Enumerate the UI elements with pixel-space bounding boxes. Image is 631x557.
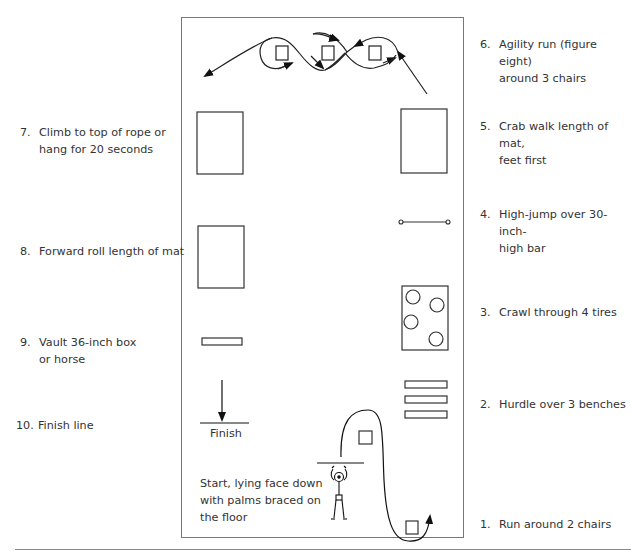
station-10-label: 10. Finish line xyxy=(16,417,94,434)
station-text-line-2: or horse xyxy=(20,351,136,368)
chair-icon xyxy=(276,46,288,60)
station-number: 7. xyxy=(20,124,31,141)
station-text-line-2: high bar xyxy=(480,240,631,257)
station-7-label: 7. Climb to top of rope or hang for 20 s… xyxy=(20,124,166,158)
crab-walk-mat xyxy=(401,109,447,173)
agility-run-figure-eight xyxy=(205,33,427,94)
station-8-label: 8. Forward roll length of mat xyxy=(20,243,184,260)
tire-icon xyxy=(406,290,420,304)
station-1-label: 1. Run around 2 chairs xyxy=(480,516,611,533)
station-number: 2. xyxy=(480,396,491,413)
station-text-line-1: Agility run (figure eight) xyxy=(480,36,631,70)
station-text: Run around 2 chairs xyxy=(480,516,611,533)
rope-climb-mat xyxy=(197,112,243,174)
station-text-line-1: Crab walk length of mat, xyxy=(480,118,631,152)
station-text-line-2: hang for 20 seconds xyxy=(20,141,166,158)
start-line-3: the floor xyxy=(200,509,323,526)
bench-icon xyxy=(405,381,447,388)
bench-icon xyxy=(405,396,447,403)
station-number: 10. xyxy=(16,417,34,434)
station-text: Crawl through 4 tires xyxy=(480,304,617,321)
bottom-rule-divider xyxy=(15,549,631,550)
station-6-label: 6. Agility run (figure eight) around 3 c… xyxy=(480,36,631,87)
station-text: Forward roll length of mat xyxy=(20,243,184,260)
tire-icon xyxy=(430,298,444,312)
vault-box xyxy=(202,338,242,345)
chair-icon xyxy=(322,46,334,60)
finish-label: Finish xyxy=(210,425,242,442)
station-number: 1. xyxy=(480,516,491,533)
tire-icon xyxy=(429,332,443,346)
high-jump-bar xyxy=(399,220,450,224)
tire-icon xyxy=(404,315,418,329)
chair-icon xyxy=(359,431,372,444)
start-instructions: Start, lying face down with palms braced… xyxy=(200,475,323,526)
station-3-label: 3. Crawl through 4 tires xyxy=(480,304,617,321)
station-2-label: 2. Hurdle over 3 benches xyxy=(480,396,626,413)
station-text-line-1: Climb to top of rope or xyxy=(20,124,166,141)
station-text-line-1: Vault 36-inch box xyxy=(20,334,136,351)
bench-icon xyxy=(405,411,447,418)
station-text-line-2: feet first xyxy=(480,152,631,169)
chair-icon xyxy=(406,521,418,534)
station-number: 4. xyxy=(480,206,491,223)
station-text: Hurdle over 3 benches xyxy=(480,396,626,413)
station-text-line-2: around 3 chairs xyxy=(480,70,631,87)
tires-area xyxy=(402,286,448,350)
station-number: 9. xyxy=(20,334,31,351)
forward-roll-mat xyxy=(198,226,244,288)
station-number: 3. xyxy=(480,304,491,321)
station-number: 5. xyxy=(480,118,491,135)
start-line-1: Start, lying face down xyxy=(200,475,323,492)
chair-icon xyxy=(369,46,381,60)
station-number: 6. xyxy=(480,36,491,53)
station-9-label: 9. Vault 36-inch box or horse xyxy=(20,334,136,368)
benches xyxy=(405,381,447,418)
start-line-2: with palms braced on xyxy=(200,492,323,509)
stick-figure-icon xyxy=(331,466,347,519)
station-5-label: 5. Crab walk length of mat, feet first xyxy=(480,118,631,169)
station-number: 8. xyxy=(20,243,31,260)
station-text-line-1: High-jump over 30-inch- xyxy=(480,206,631,240)
station-4-label: 4. High-jump over 30-inch- high bar xyxy=(480,206,631,257)
